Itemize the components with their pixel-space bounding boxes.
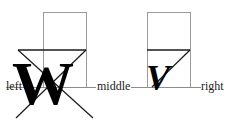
label-middle: middle — [97, 80, 130, 92]
right-glyph-v: V — [146, 60, 170, 96]
typography-alignment-figure: W V left middle right — [0, 0, 245, 125]
label-right: right — [201, 80, 224, 92]
label-left: left — [6, 80, 22, 92]
